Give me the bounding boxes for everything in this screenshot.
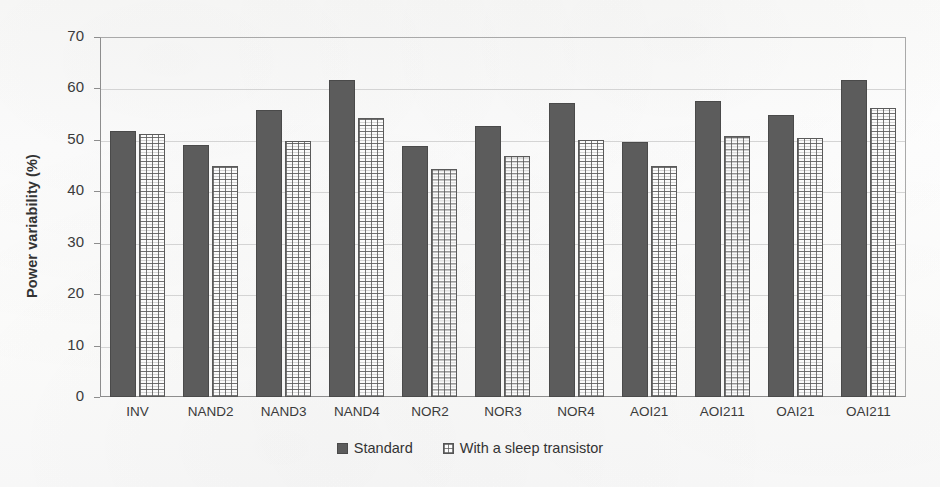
- bar-group: [832, 38, 905, 397]
- x-axis-tick-label: AOI21: [613, 404, 686, 419]
- bar-standard: [402, 146, 428, 397]
- bar-group: [320, 38, 393, 397]
- bar-group: [466, 38, 539, 397]
- bar-group: [393, 38, 466, 397]
- bar-standard: [183, 145, 209, 397]
- y-axis-tick-label: 20: [46, 284, 84, 301]
- hollow-square-icon: [443, 443, 454, 454]
- legend-item[interactable]: Standard: [337, 440, 413, 456]
- x-axis-tick-label: NAND4: [320, 404, 393, 419]
- x-axis-tick-label: NOR3: [466, 404, 539, 419]
- bar-standard: [768, 115, 794, 397]
- bar-standard: [549, 103, 575, 397]
- bar-sleep-transistor: [358, 118, 384, 397]
- bars-layer: [101, 38, 905, 397]
- bar-standard: [695, 101, 721, 397]
- bar-sleep-transistor: [724, 136, 750, 397]
- bar-chart: Power variability (%) 010203040506070 IN…: [0, 0, 940, 487]
- x-axis-tick-label: INV: [101, 404, 174, 419]
- y-axis-tick-mark: [94, 397, 100, 398]
- bar-sleep-transistor: [651, 166, 677, 397]
- y-axis-tick-label: 50: [46, 130, 84, 147]
- bar-group: [247, 38, 320, 397]
- solid-square-icon: [337, 443, 348, 454]
- bar-standard: [329, 80, 355, 397]
- x-axis-tick-label: NOR4: [540, 404, 613, 419]
- x-axis-tick-label: NOR2: [393, 404, 466, 419]
- legend-item[interactable]: With a sleep transistor: [443, 440, 603, 456]
- bar-group: [686, 38, 759, 397]
- x-axis-tick-label: OAI211: [832, 404, 905, 419]
- x-axis-tick-label: NAND3: [247, 404, 320, 419]
- bar-group: [101, 38, 174, 397]
- bar-standard: [841, 80, 867, 397]
- bar-sleep-transistor: [797, 138, 823, 397]
- y-axis-tick-label: 60: [46, 78, 84, 95]
- x-axis-tick-label: OAI21: [759, 404, 832, 419]
- bar-group: [540, 38, 613, 397]
- y-axis-tick-label: 70: [46, 27, 84, 44]
- legend-item-label: Standard: [354, 440, 413, 456]
- bar-standard: [475, 126, 501, 397]
- bar-group: [174, 38, 247, 397]
- bar-standard: [110, 131, 136, 397]
- y-axis-tick-label: 0: [46, 387, 84, 404]
- y-axis-title: Power variability (%): [24, 96, 40, 356]
- bar-standard: [256, 110, 282, 397]
- bar-sleep-transistor: [870, 108, 896, 397]
- bar-sleep-transistor: [504, 156, 530, 397]
- bar-group: [613, 38, 686, 397]
- bar-sleep-transistor: [578, 140, 604, 397]
- y-axis-tick-label: 10: [46, 336, 84, 353]
- y-axis-tick-label: 30: [46, 233, 84, 250]
- y-axis-tick-label: 40: [46, 181, 84, 198]
- x-axis-tick-label: AOI211: [686, 404, 759, 419]
- bar-group: [759, 38, 832, 397]
- bar-sleep-transistor: [212, 166, 238, 397]
- bar-sleep-transistor: [285, 141, 311, 397]
- chart-legend: StandardWith a sleep transistor: [0, 440, 940, 456]
- legend-item-label: With a sleep transistor: [460, 440, 603, 456]
- bar-sleep-transistor: [139, 134, 165, 397]
- bar-standard: [622, 142, 648, 397]
- bar-sleep-transistor: [431, 169, 457, 397]
- x-axis-tick-label: NAND2: [174, 404, 247, 419]
